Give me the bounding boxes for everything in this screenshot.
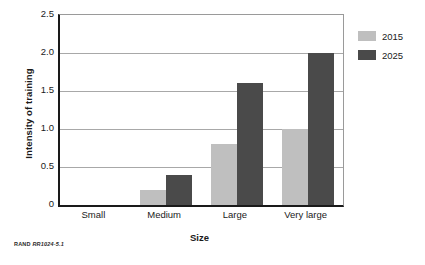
bar-group: [282, 15, 334, 205]
y-axis-tick-label: 1.0: [22, 123, 54, 133]
bars-layer: [60, 15, 343, 205]
bar-chart-figure: Intensity of training 00.51.01.52.02.5 S…: [0, 0, 425, 265]
figure-credit: RAND RR1024-5.1: [14, 241, 64, 247]
legend-swatch-2025: [358, 50, 376, 60]
legend-swatch-2015: [358, 31, 376, 41]
legend-label: 2025: [382, 50, 403, 61]
x-axis-tick-label: Large: [200, 209, 271, 220]
bar-2025-large: [237, 83, 263, 205]
bar-2025-very-large: [308, 53, 334, 205]
bar-group: [140, 15, 192, 205]
bar-group: [69, 15, 121, 205]
x-axis-tick-labels: SmallMediumLargeVery large: [58, 209, 341, 225]
y-axis-tick-label: 1.5: [22, 85, 54, 95]
x-axis-title: Size: [58, 232, 341, 243]
credit-id: RR1024-5.1: [32, 241, 64, 247]
legend-item: 2015: [358, 28, 403, 44]
y-axis-tick-label: 0.5: [22, 161, 54, 171]
bar-2025-medium: [166, 175, 192, 205]
y-axis-tick-labels: 00.51.01.52.02.5: [22, 14, 54, 204]
x-axis-tick-label: Very large: [270, 209, 341, 220]
y-axis-tick-label: 2.5: [22, 9, 54, 19]
bar-2015-large: [211, 144, 237, 205]
x-axis-tick-label: Medium: [129, 209, 200, 220]
bar-2015-very-large: [282, 129, 308, 205]
plot-area: [58, 14, 344, 207]
legend-label: 2015: [382, 31, 403, 42]
y-axis-tick-label: 2.0: [22, 47, 54, 57]
chart-legend: 20152025: [358, 28, 403, 66]
bar-group: [211, 15, 263, 205]
x-axis-tick-label: Small: [58, 209, 129, 220]
legend-item: 2025: [358, 47, 403, 63]
bar-2015-medium: [140, 190, 166, 205]
y-axis-tick-label: 0: [22, 199, 54, 209]
credit-org: RAND: [14, 241, 31, 247]
